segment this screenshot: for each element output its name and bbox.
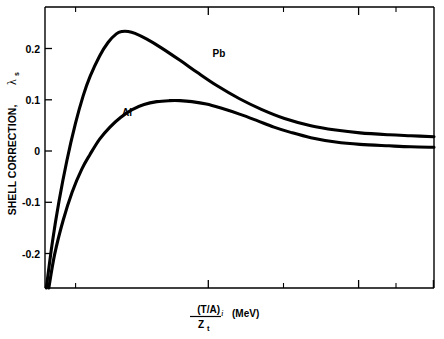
curve-al (49, 101, 434, 288)
curve-pb (46, 31, 434, 288)
lambda-symbol: λ (5, 79, 19, 85)
shell-correction-plot: 0.2 0.1 0 -0.1 -0.2 Pb Al SHELL CORRECTI… (0, 0, 444, 339)
x-axis-denominator: Z (198, 319, 204, 330)
y-tick-label: 0.2 (25, 43, 40, 55)
y-axis-title-text: SHELL CORRECTION, (6, 105, 18, 216)
y-tick-label: 0.1 (25, 94, 40, 106)
x-axis-denominator-subscript: t (207, 324, 210, 333)
x-axis-units: (MeV) (232, 308, 259, 319)
y-tick-label: 0 (34, 145, 40, 157)
y-axis-title: SHELL CORRECTION, λ s (5, 72, 20, 215)
lambda-subscript: s (13, 72, 20, 76)
y-tick-label: -0.1 (22, 196, 40, 208)
data-curves (46, 31, 434, 288)
x-axis-numerator: (T/A) (197, 304, 220, 315)
figure-container: 0.2 0.1 0 -0.1 -0.2 Pb Al SHELL CORRECTI… (0, 0, 444, 339)
y-tick-marks (45, 49, 52, 254)
series-label-al: Al (122, 107, 132, 118)
y-tick-labels: 0.2 0.1 0 -0.1 -0.2 (22, 43, 40, 260)
series-label-pb: Pb (213, 48, 226, 59)
y-tick-label: -0.2 (22, 248, 40, 260)
x-axis-numerator-subscript: i (221, 308, 224, 318)
x-axis-title: (T/A) i Z t (MeV) (190, 304, 259, 333)
x-tick-marks-minor (76, 7, 396, 288)
